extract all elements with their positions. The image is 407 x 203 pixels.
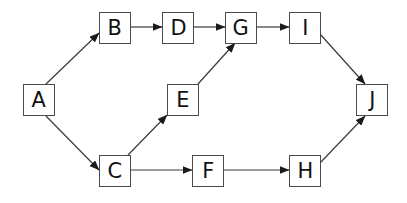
node-a-label: A bbox=[32, 89, 46, 111]
node-c-label: C bbox=[108, 160, 123, 182]
directed-graph-diagram: A B D G I E J C F H bbox=[0, 0, 407, 203]
node-f: F bbox=[192, 155, 224, 187]
edge-h-to-j-arrow bbox=[320, 116, 365, 163]
node-i-label: I bbox=[302, 17, 308, 39]
node-f-label: F bbox=[202, 160, 214, 182]
node-e-label: E bbox=[176, 89, 189, 111]
node-c: C bbox=[99, 155, 131, 187]
node-b-label: B bbox=[108, 17, 122, 39]
edge-c-to-e-arrow bbox=[128, 115, 167, 155]
node-j: J bbox=[356, 84, 388, 116]
node-d: D bbox=[162, 12, 194, 44]
node-h-label: H bbox=[297, 160, 313, 182]
node-i: I bbox=[289, 12, 321, 44]
node-b: B bbox=[99, 12, 131, 44]
node-g-label: G bbox=[233, 17, 249, 39]
node-d-label: D bbox=[170, 17, 186, 39]
edge-a-to-b-arrow bbox=[46, 33, 99, 84]
node-a: A bbox=[23, 84, 55, 116]
node-e: E bbox=[167, 84, 199, 116]
edge-a-to-c-arrow bbox=[46, 116, 99, 170]
node-j-label: J bbox=[369, 89, 375, 111]
edge-i-to-j-arrow bbox=[320, 34, 365, 84]
node-h: H bbox=[289, 155, 321, 187]
edge-e-to-g-arrow bbox=[198, 43, 235, 84]
edges-group bbox=[46, 27, 365, 170]
node-g: G bbox=[225, 12, 257, 44]
